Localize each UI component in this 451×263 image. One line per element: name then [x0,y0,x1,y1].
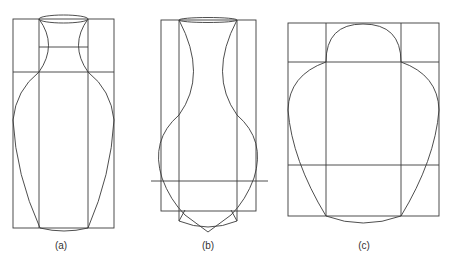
vase-diagrams [0,0,451,263]
panel-b-label: (b) [202,240,214,251]
panel-b-drawing [151,18,268,233]
panel-c-label: (c) [358,240,370,251]
panel-c-drawing [288,23,439,223]
panel-a-label: (a) [55,240,67,251]
panel-a-drawing [13,15,114,231]
